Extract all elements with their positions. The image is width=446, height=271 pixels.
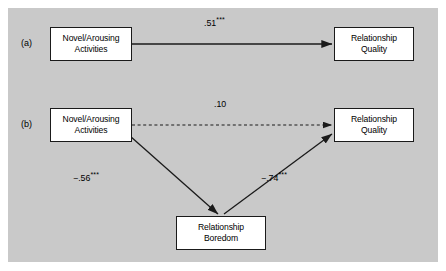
diagram-panel: (a) Novel/Arousing Activities Relationsh… bbox=[8, 8, 438, 262]
node-label-line2: Boredom bbox=[204, 233, 238, 243]
path-label-a-path: −.56*** bbox=[73, 171, 99, 183]
node-relationship-boredom: Relationship Boredom bbox=[176, 216, 266, 250]
node-relationship-quality-b: Relationship Quality bbox=[334, 108, 414, 142]
node-relationship-quality-a: Relationship Quality bbox=[334, 27, 414, 61]
node-label-line1: Relationship bbox=[351, 33, 397, 43]
node-label-line1: Novel/Arousing bbox=[63, 114, 120, 124]
significance-stars: *** bbox=[216, 16, 225, 23]
node-novel-arousing-activities-a: Novel/Arousing Activities bbox=[50, 27, 132, 61]
node-label-line1: Novel/Arousing bbox=[63, 33, 120, 43]
significance-stars: *** bbox=[278, 171, 287, 178]
node-label-line2: Activities bbox=[75, 44, 108, 54]
path-label-b-path: −.74*** bbox=[261, 171, 287, 183]
node-label-line1: Relationship bbox=[351, 114, 397, 124]
node-label-line2: Quality bbox=[361, 125, 387, 135]
coefficient-value: −.56 bbox=[73, 173, 90, 183]
coefficient-value: .10 bbox=[214, 99, 226, 109]
arrow-a-path bbox=[130, 136, 218, 214]
panel-label-b: (b) bbox=[21, 119, 32, 129]
node-label-line2: Activities bbox=[75, 125, 108, 135]
significance-stars: *** bbox=[90, 171, 99, 178]
path-label-direct-effect: .10 bbox=[214, 97, 226, 109]
coefficient-value: .51 bbox=[204, 18, 216, 28]
panel-label-a: (a) bbox=[21, 38, 32, 48]
node-novel-arousing-activities-b: Novel/Arousing Activities bbox=[50, 108, 132, 142]
node-label-line1: Relationship bbox=[198, 222, 244, 232]
coefficient-value: −.74 bbox=[261, 173, 278, 183]
node-label-line2: Quality bbox=[361, 44, 387, 54]
path-label-total-effect: .51*** bbox=[204, 16, 225, 28]
figure-container: (a) Novel/Arousing Activities Relationsh… bbox=[0, 0, 446, 271]
